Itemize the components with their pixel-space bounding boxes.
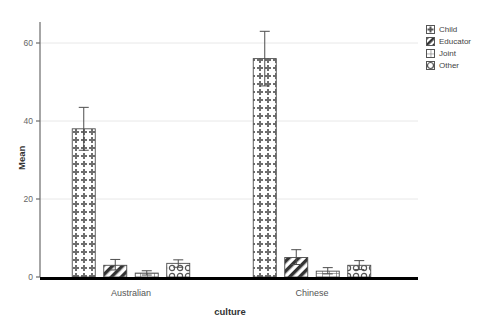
y-tick-label-0: 0 <box>0 272 33 282</box>
y-tick-label-20: 20 <box>0 194 33 204</box>
y-axis-title: Mean <box>16 146 27 170</box>
pattern-swatch-diagonal-stripe <box>426 37 435 46</box>
legend-item-joint[interactable]: Joint <box>426 48 471 58</box>
legend-item-label: Joint <box>439 49 456 58</box>
pattern-swatch-grid-cross <box>426 49 435 58</box>
x-category-label-chinese: Chinese <box>249 288 375 298</box>
legend-item-label: Child <box>439 25 457 34</box>
x-category-label-australian: Australian <box>68 288 194 298</box>
bar-chart: 0204060 AustralianChinese Mean culture C… <box>0 0 493 326</box>
pattern-swatch-dotted-cross <box>426 25 435 34</box>
y-tick-label-60: 60 <box>0 38 33 48</box>
bar-chinese-child <box>253 59 276 277</box>
plot-area <box>0 0 493 326</box>
pattern-swatch-circles <box>426 61 435 70</box>
axis-lines <box>36 22 40 277</box>
y-tick-label-40: 40 <box>0 116 33 126</box>
error-bars-layer <box>79 31 365 275</box>
legend-item-label: Educator <box>439 37 471 46</box>
x-axis-title: culture <box>0 306 460 317</box>
bars-layer <box>72 59 371 277</box>
legend-item-educator[interactable]: Educator <box>426 36 471 46</box>
gridlines <box>40 43 418 199</box>
legend-item-other[interactable]: Other <box>426 60 471 70</box>
bar-australian-child <box>72 129 95 277</box>
legend-item-label: Other <box>439 61 459 70</box>
legend: ChildEducatorJointOther <box>426 24 471 70</box>
legend-item-child[interactable]: Child <box>426 24 471 34</box>
